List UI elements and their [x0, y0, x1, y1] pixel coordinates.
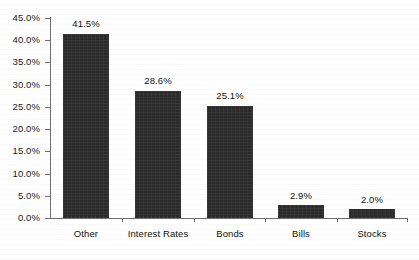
y-axis-tick: [45, 85, 50, 86]
bar-value-label-bonds: 25.1%: [200, 90, 260, 101]
y-axis-tick: [45, 196, 50, 197]
y-axis-label-20: 20.0%: [0, 123, 40, 134]
bar-bills: [278, 205, 324, 218]
x-axis-tick: [407, 218, 408, 222]
y-axis-label-30: 30.0%: [0, 79, 40, 90]
y-axis-label-15: 15.0%: [0, 145, 40, 156]
bar-value-label-stocks: 2.0%: [345, 194, 399, 205]
bar-other: [63, 34, 109, 218]
bar-value-label-interest-rates: 28.6%: [128, 75, 188, 86]
y-axis-line: [50, 17, 51, 219]
y-axis-label-25: 25.0%: [0, 101, 40, 112]
x-axis-line: [50, 218, 408, 219]
y-axis-label-35: 35.0%: [0, 56, 40, 67]
y-axis-tick: [45, 40, 50, 41]
y-axis-label-0: 0.0%: [0, 212, 40, 223]
x-axis-category-other: Other: [51, 228, 121, 239]
x-axis-tick: [265, 218, 266, 222]
x-axis-category-interest-rates: Interest Rates: [118, 228, 198, 239]
y-axis-tick: [45, 174, 50, 175]
bar-stocks: [349, 209, 395, 218]
y-axis-label-45: 45.0%: [0, 12, 40, 23]
y-axis-label-5: 5.0%: [0, 190, 40, 201]
x-axis-tick: [194, 218, 195, 222]
y-axis-tick: [45, 18, 50, 19]
y-axis-tick: [45, 129, 50, 130]
bar-chart: 45.0% 40.0% 35.0% 30.0% 25.0% 20.0% 15.0…: [0, 0, 419, 260]
y-axis-tick: [45, 62, 50, 63]
y-axis-label-10: 10.0%: [0, 168, 40, 179]
y-axis-label-40: 40.0%: [0, 34, 40, 45]
bar-bonds: [207, 106, 253, 218]
bar-value-label-other: 41.5%: [56, 18, 116, 29]
x-axis-category-bills: Bills: [266, 228, 336, 239]
bar-value-label-bills: 2.9%: [274, 190, 328, 201]
x-axis-category-bonds: Bonds: [195, 228, 265, 239]
x-axis-tick: [337, 218, 338, 222]
y-axis-tick: [45, 107, 50, 108]
x-axis-category-stocks: Stocks: [337, 228, 407, 239]
bar-interest-rates: [135, 91, 181, 218]
x-axis-tick: [122, 218, 123, 222]
y-axis-tick: [45, 151, 50, 152]
